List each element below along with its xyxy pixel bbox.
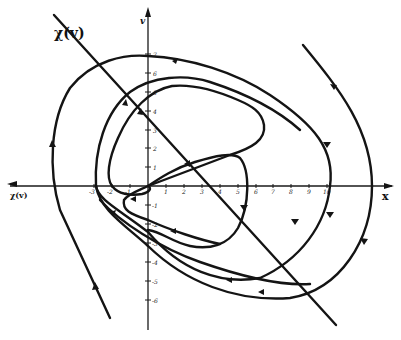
- arrow-icon: [291, 219, 299, 225]
- y-tick-label: -6: [152, 297, 158, 304]
- arrow-icon: [49, 140, 56, 147]
- y-tick-label: 1: [153, 164, 157, 171]
- x-tick-label: 8: [289, 188, 293, 195]
- x-tick-label: 9: [307, 188, 311, 195]
- y-ticks: 1 2 3 4 5 6 7 -1 -2 -3 -4 -5 -6: [145, 51, 158, 304]
- arrow-icon: [240, 205, 248, 211]
- neg-x-axis-label: χ(v): [10, 190, 28, 200]
- x-tick-label: 2: [181, 188, 186, 195]
- x-axis-arrow-right-icon: [384, 183, 394, 189]
- x-tick-label: 3: [200, 188, 204, 195]
- x-axis-label: x: [382, 190, 389, 203]
- y-tick-label: 2: [152, 145, 157, 152]
- y-tick-label: 6: [153, 70, 157, 77]
- arrow-icon: [130, 196, 136, 202]
- x-tick-label: -3: [89, 188, 95, 195]
- x-tick-label: 6: [254, 188, 258, 195]
- x-tick-label: 1: [164, 188, 168, 195]
- x-tick-label: -2: [107, 188, 113, 195]
- phase-plane-svg: -3 -2 -1 1 2 3 4 5 6 7 8 9 10 1 2 3 4 5 …: [0, 0, 401, 340]
- x-tick-label: 5: [236, 188, 240, 195]
- v-axis-label: v: [140, 16, 146, 26]
- x-tick-label: 7: [271, 188, 275, 195]
- y-tick-label: -4: [152, 259, 158, 266]
- y-tick-label: -5: [152, 278, 158, 285]
- phase-plane-figure: -3 -2 -1 1 2 3 4 5 6 7 8 9 10 1 2 3 4 5 …: [0, 0, 401, 340]
- arrow-icon: [258, 289, 264, 295]
- trajectory-inner: [148, 155, 247, 247]
- y-tick-label: -1: [152, 202, 158, 209]
- y-tick-label: 4: [152, 108, 157, 115]
- v-axis-arrow-icon: [145, 7, 151, 17]
- arrow-icon: [326, 212, 334, 218]
